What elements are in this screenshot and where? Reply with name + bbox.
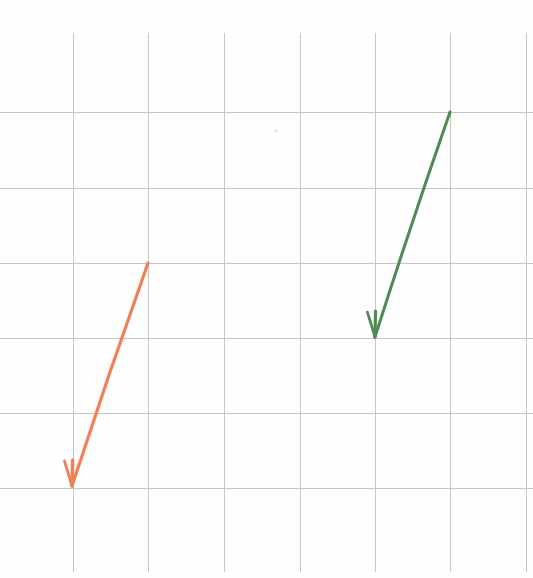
paper-speck: [274, 129, 277, 132]
speck-layer: [274, 129, 277, 132]
graph-paper-canvas: [0, 0, 533, 578]
paper-background: [0, 0, 533, 578]
vector-diagram-svg: [0, 0, 533, 578]
